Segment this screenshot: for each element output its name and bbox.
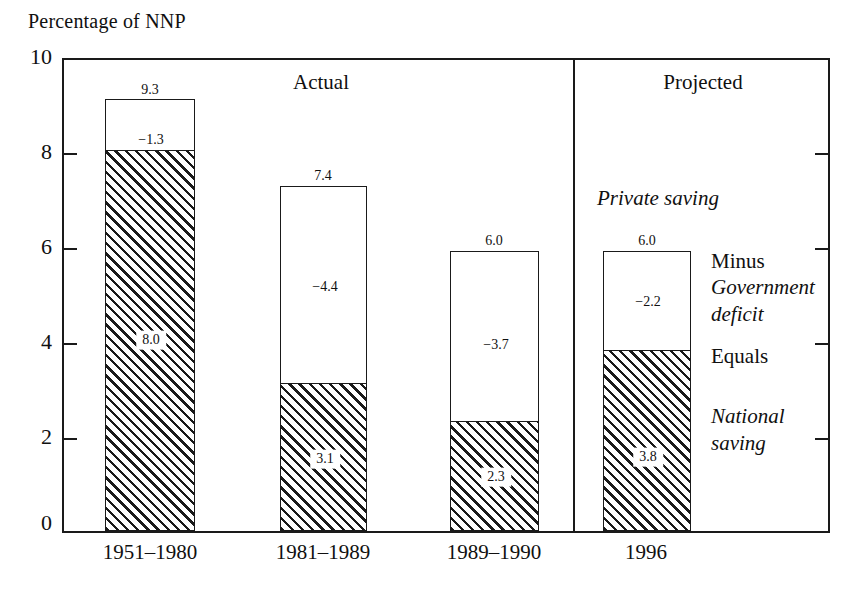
annotation-saving: saving — [711, 432, 766, 456]
x-tick-label-1996: 1996 — [625, 540, 667, 565]
y-tick-mark-left-6 — [64, 248, 77, 250]
bar-deficit-label-2: −3.7 — [483, 338, 508, 353]
bar-national-saving-label-3: 3.8 — [633, 448, 663, 467]
y-tick-label-4: 4 — [8, 329, 52, 355]
y-axis-title: Percentage of NNP — [28, 10, 186, 33]
annotation-government: Government — [711, 276, 815, 300]
panel-title-projected: Projected — [663, 70, 742, 95]
bar-1981-1989[interactable]: −4.4 3.1 — [280, 186, 367, 531]
y-tick-mark-right-6 — [815, 248, 828, 250]
y-tick-label-2: 2 — [8, 424, 52, 450]
y-tick-mark-right-4 — [815, 343, 828, 345]
bar-1951-1980[interactable]: −1.3 8.0 — [105, 99, 195, 531]
x-tick-label-1989-1990: 1989–1990 — [447, 540, 542, 565]
y-tick-label-6: 6 — [8, 234, 52, 260]
annotation-national: National — [711, 405, 785, 429]
annotation-equals: Equals — [711, 345, 768, 369]
bar-national-saving-label-2: 2.3 — [481, 468, 511, 487]
y-tick-mark-left-2 — [64, 438, 77, 440]
y-tick-label-0: 0 — [8, 510, 52, 536]
y-tick-mark-right-8 — [815, 153, 828, 155]
bar-1996[interactable]: −2.2 3.8 — [603, 251, 691, 531]
x-tick-label-1951-1980: 1951–1980 — [103, 540, 198, 565]
y-tick-mark-right-2 — [815, 438, 828, 440]
chart-canvas: Percentage of NNP 10 8 6 4 2 0 Actual Pr… — [0, 0, 860, 594]
x-tick-label-1981-1989: 1981–1989 — [276, 540, 371, 565]
panel-title-actual: Actual — [293, 70, 349, 95]
bar-total-label-0: 9.3 — [141, 82, 159, 98]
bar-deficit-label-0: −1.3 — [138, 133, 163, 148]
plot-area: Actual Projected 9.3 −1.3 8.0 7.4 −4.4 3… — [62, 58, 830, 533]
bar-total-label-3: 6.0 — [638, 233, 656, 249]
bar-deficit-label-1: −4.4 — [312, 280, 337, 295]
bar-segment-national-saving-3 — [604, 350, 690, 530]
annotation-private-saving: Private saving — [597, 187, 719, 211]
panel-divider — [573, 60, 575, 531]
bar-deficit-label-3: −2.2 — [635, 295, 660, 310]
bar-national-saving-label-0: 8.0 — [136, 331, 166, 350]
y-tick-label-8: 8 — [8, 139, 52, 165]
y-tick-label-10: 10 — [8, 44, 52, 70]
y-tick-mark-left-4 — [64, 343, 77, 345]
bar-national-saving-label-1: 3.1 — [310, 450, 340, 469]
bar-1989-1990[interactable]: −3.7 2.3 — [450, 251, 539, 531]
bar-total-label-2: 6.0 — [485, 233, 503, 249]
y-tick-mark-left-8 — [64, 153, 77, 155]
bar-total-label-1: 7.4 — [314, 168, 332, 184]
annotation-deficit: deficit — [711, 303, 763, 327]
annotation-minus: Minus — [711, 250, 765, 274]
